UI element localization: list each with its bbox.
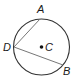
circle-diagram: A B D C — [0, 0, 78, 79]
label-a: A — [36, 3, 44, 15]
label-c: C — [45, 41, 53, 53]
label-d: D — [3, 41, 11, 53]
center-point — [40, 45, 44, 49]
label-b: B — [63, 65, 70, 77]
chord-db — [14, 47, 63, 65]
